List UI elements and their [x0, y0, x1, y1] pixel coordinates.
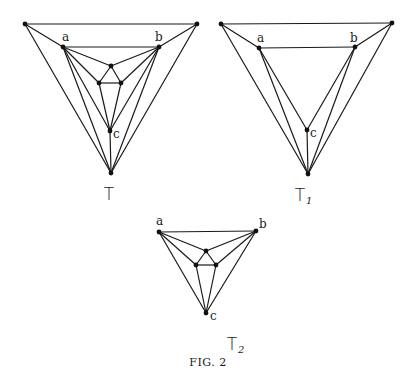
edge-it-il	[99, 66, 111, 83]
vertex-a	[157, 230, 162, 235]
vertex-b	[254, 229, 259, 234]
vertex-OR	[195, 22, 200, 27]
vertex-label-a: a	[62, 30, 69, 44]
edge-c-B	[307, 130, 308, 174]
vertex-label-b: b	[155, 30, 163, 44]
vertex-OR	[390, 21, 395, 26]
vertex-c	[108, 129, 113, 134]
vertex-c	[305, 128, 310, 133]
edge-a-it	[159, 232, 206, 251]
vertex-OL	[23, 22, 28, 27]
vertex-il	[97, 81, 102, 86]
graph-t: abcT	[23, 22, 200, 204]
edge-OR-b	[159, 24, 197, 47]
edge-b-B	[308, 47, 355, 174]
vertex-label-a: a	[156, 214, 163, 228]
edge-it-ir	[206, 251, 216, 265]
edge-a-b	[259, 47, 355, 48]
edge-a-c	[259, 48, 307, 130]
edge-a-it	[63, 47, 111, 66]
vertex-label-b: b	[350, 31, 358, 45]
edge-a-B	[259, 48, 308, 174]
graph-subscript-t2: 2	[237, 344, 244, 355]
edge-OR-b	[355, 23, 392, 47]
edge-OL-a	[25, 24, 63, 47]
vertex-B	[306, 172, 311, 177]
edge-OR-B	[308, 23, 392, 174]
edge-OL-B	[25, 24, 111, 173]
graph-t2: abcT2	[156, 214, 267, 355]
vertex-il	[194, 263, 199, 268]
edge-a-il	[159, 232, 196, 265]
edge-a-B	[63, 47, 111, 173]
vertex-B	[109, 171, 114, 176]
vertex-label-a: a	[257, 31, 264, 45]
vertex-label-b: b	[259, 217, 267, 231]
vertex-it	[109, 64, 114, 69]
edge-a-b	[159, 231, 256, 232]
vertex-c	[204, 311, 209, 316]
edge-it-il	[196, 251, 206, 265]
vertex-label-c: c	[113, 127, 120, 141]
figure-caption: FIG. 2	[189, 356, 226, 369]
edge-b-it	[206, 231, 256, 251]
figure-2: abcT abcT1 abcT2 FIG. 2	[0, 0, 412, 382]
graph-t1: abcT1	[219, 21, 395, 206]
vertex-a	[61, 45, 66, 50]
edge-a-il	[63, 47, 99, 83]
vertex-it	[204, 249, 209, 254]
vertex-label-c: c	[310, 126, 317, 140]
edge-ir-c	[110, 83, 121, 131]
edge-a-c	[159, 232, 206, 313]
edge-a-c	[63, 47, 110, 131]
edge-b-c	[206, 231, 256, 313]
vertex-ir	[119, 81, 124, 86]
vertex-ir	[214, 263, 219, 268]
edge-b-c	[110, 47, 159, 131]
edge-il-c	[99, 83, 110, 131]
edge-OL-B	[221, 24, 308, 174]
edge-b-ir	[121, 47, 159, 83]
edge-b-B	[111, 47, 159, 173]
vertex-b	[353, 45, 358, 50]
vertex-a	[257, 46, 262, 51]
graph-label-t2: T	[227, 334, 238, 354]
edge-OR-B	[111, 24, 197, 173]
edge-OL-OR	[221, 23, 392, 24]
edge-b-c	[307, 47, 355, 130]
edge-it-ir	[111, 66, 121, 83]
edge-OL-a	[221, 24, 259, 48]
edge-b-ir	[216, 231, 256, 265]
vertex-b	[157, 45, 162, 50]
graph-label-t1: T	[295, 185, 306, 205]
edge-b-it	[111, 47, 159, 66]
vertex-label-c: c	[210, 309, 217, 323]
vertex-OL	[219, 22, 224, 27]
edge-il-c	[196, 265, 206, 313]
graph-subscript-t1: 1	[306, 195, 312, 206]
edge-c-B	[110, 131, 111, 173]
graph-label-t: T	[104, 184, 115, 204]
